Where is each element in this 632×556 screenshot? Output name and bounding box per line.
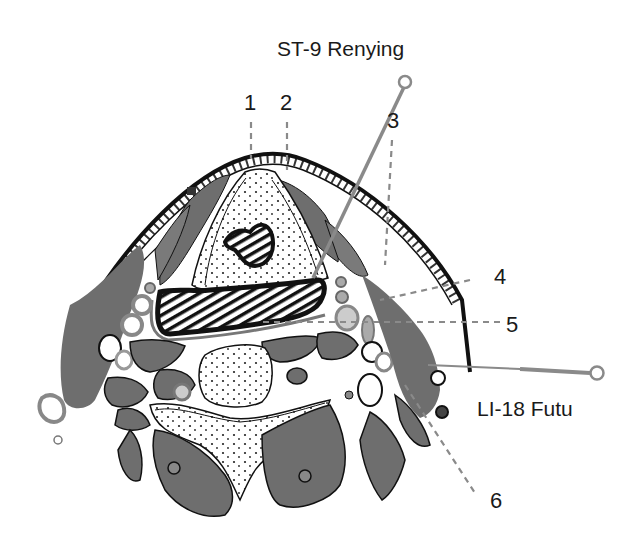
needle-handle-st9 xyxy=(399,76,411,88)
neck-cross-section-diagram xyxy=(0,0,632,556)
structure-label-5: 5 xyxy=(506,314,518,336)
needle-handle-li18 xyxy=(591,367,604,380)
structure-label-4: 4 xyxy=(494,266,506,288)
leader-line-3 xyxy=(385,140,392,265)
structure-label-6: 6 xyxy=(490,490,502,512)
structure-label-3: 3 xyxy=(387,110,399,132)
acupoint-label-li18: LI-18 Futu xyxy=(477,398,573,419)
structure-label-2: 2 xyxy=(280,92,292,114)
structure-label-1: 1 xyxy=(244,92,256,114)
acupoint-label-st9: ST-9 Renying xyxy=(277,38,404,59)
needle-li18 xyxy=(428,365,604,380)
cricoid-cartilage xyxy=(151,280,325,340)
